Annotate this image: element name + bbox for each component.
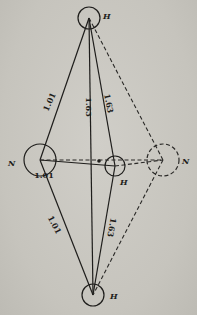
bond-h-top-to-h-bottom (89, 18, 93, 295)
bond-h-middle-to-n-right (115, 160, 163, 166)
bond-h-top-to-n-right (89, 18, 163, 160)
bond-length-label: 1.01 (34, 170, 53, 180)
ammonia-inversion-diagram: HHNHN1.011.631.631.011.011.63 (0, 0, 197, 315)
bond-length-label: 1.63 (105, 217, 118, 238)
atom-label-h-middle: H (119, 177, 128, 187)
center-of-mass-dot (97, 159, 101, 163)
bond-length-label: 1.01 (41, 91, 58, 113)
bond-n-right-to-h-bottom (93, 160, 163, 295)
bonds-layer (40, 18, 163, 295)
atoms-layer (24, 7, 179, 306)
bond-length-label: 1.01 (46, 214, 64, 236)
bond-length-label: 1.63 (102, 93, 116, 115)
atom-label-h-bottom: H (109, 291, 118, 301)
atom-label-n-left: N (7, 158, 16, 168)
bond-n-left-to-h-bottom (40, 160, 93, 295)
bond-length-label: 1.63 (84, 97, 94, 117)
diagram-canvas: HHNHN1.011.631.631.011.011.63 (0, 0, 197, 315)
atom-label-h-top: H (102, 11, 111, 21)
labels-layer: HHNHN1.011.631.631.011.011.63 (7, 11, 190, 301)
bond-n-left-to-h-middle (40, 160, 115, 166)
atom-label-n-right: N (181, 156, 190, 166)
bond-h-top-to-n-left (40, 18, 89, 160)
